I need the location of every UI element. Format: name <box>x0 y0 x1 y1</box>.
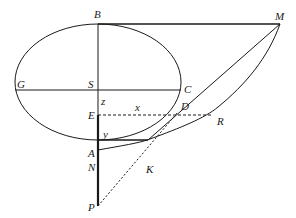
label-A: A <box>88 148 95 159</box>
label-G: G <box>17 79 25 90</box>
label-C: C <box>184 84 191 95</box>
label-P: P <box>88 202 95 213</box>
label-y: y <box>103 129 108 140</box>
label-S: S <box>88 79 94 90</box>
geometry-diagram: B M G S C z x D E R y A N K P <box>0 0 296 218</box>
label-R: R <box>217 116 224 127</box>
diagram-canvas <box>0 0 296 218</box>
label-D: D <box>181 101 189 112</box>
label-K: K <box>146 164 153 175</box>
label-E: E <box>88 110 95 121</box>
label-B: B <box>94 9 101 20</box>
label-N: N <box>88 162 95 173</box>
line-KM <box>148 24 280 140</box>
label-x: x <box>135 102 140 113</box>
label-M: M <box>275 11 284 22</box>
dashed-PD <box>98 112 178 206</box>
label-z: z <box>101 96 105 107</box>
